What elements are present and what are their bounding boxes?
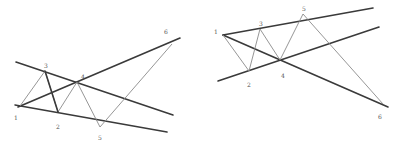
trendline-3 bbox=[18, 38, 180, 107]
point-label-5: 5 bbox=[98, 134, 102, 141]
point-label-4: 4 bbox=[281, 72, 285, 79]
point-label-4: 4 bbox=[81, 73, 85, 80]
trendline-1 bbox=[223, 8, 373, 35]
left-pattern: 123456 bbox=[14, 28, 180, 141]
point-label-6: 6 bbox=[164, 28, 168, 35]
point-label-1: 1 bbox=[214, 28, 218, 35]
point-label-6: 6 bbox=[378, 113, 382, 120]
point-label-3: 3 bbox=[44, 62, 48, 69]
point-label-2: 2 bbox=[247, 81, 251, 88]
point-label-5: 5 bbox=[302, 5, 306, 12]
price-wave-path bbox=[223, 14, 383, 104]
point-label-2: 2 bbox=[56, 123, 60, 130]
pattern-diagram-canvas: 123456 123456 bbox=[0, 0, 397, 146]
price-wave-path bbox=[20, 44, 172, 127]
right-pattern: 123456 bbox=[214, 5, 388, 120]
point-label-3: 3 bbox=[259, 20, 263, 27]
point-label-1: 1 bbox=[14, 114, 18, 121]
